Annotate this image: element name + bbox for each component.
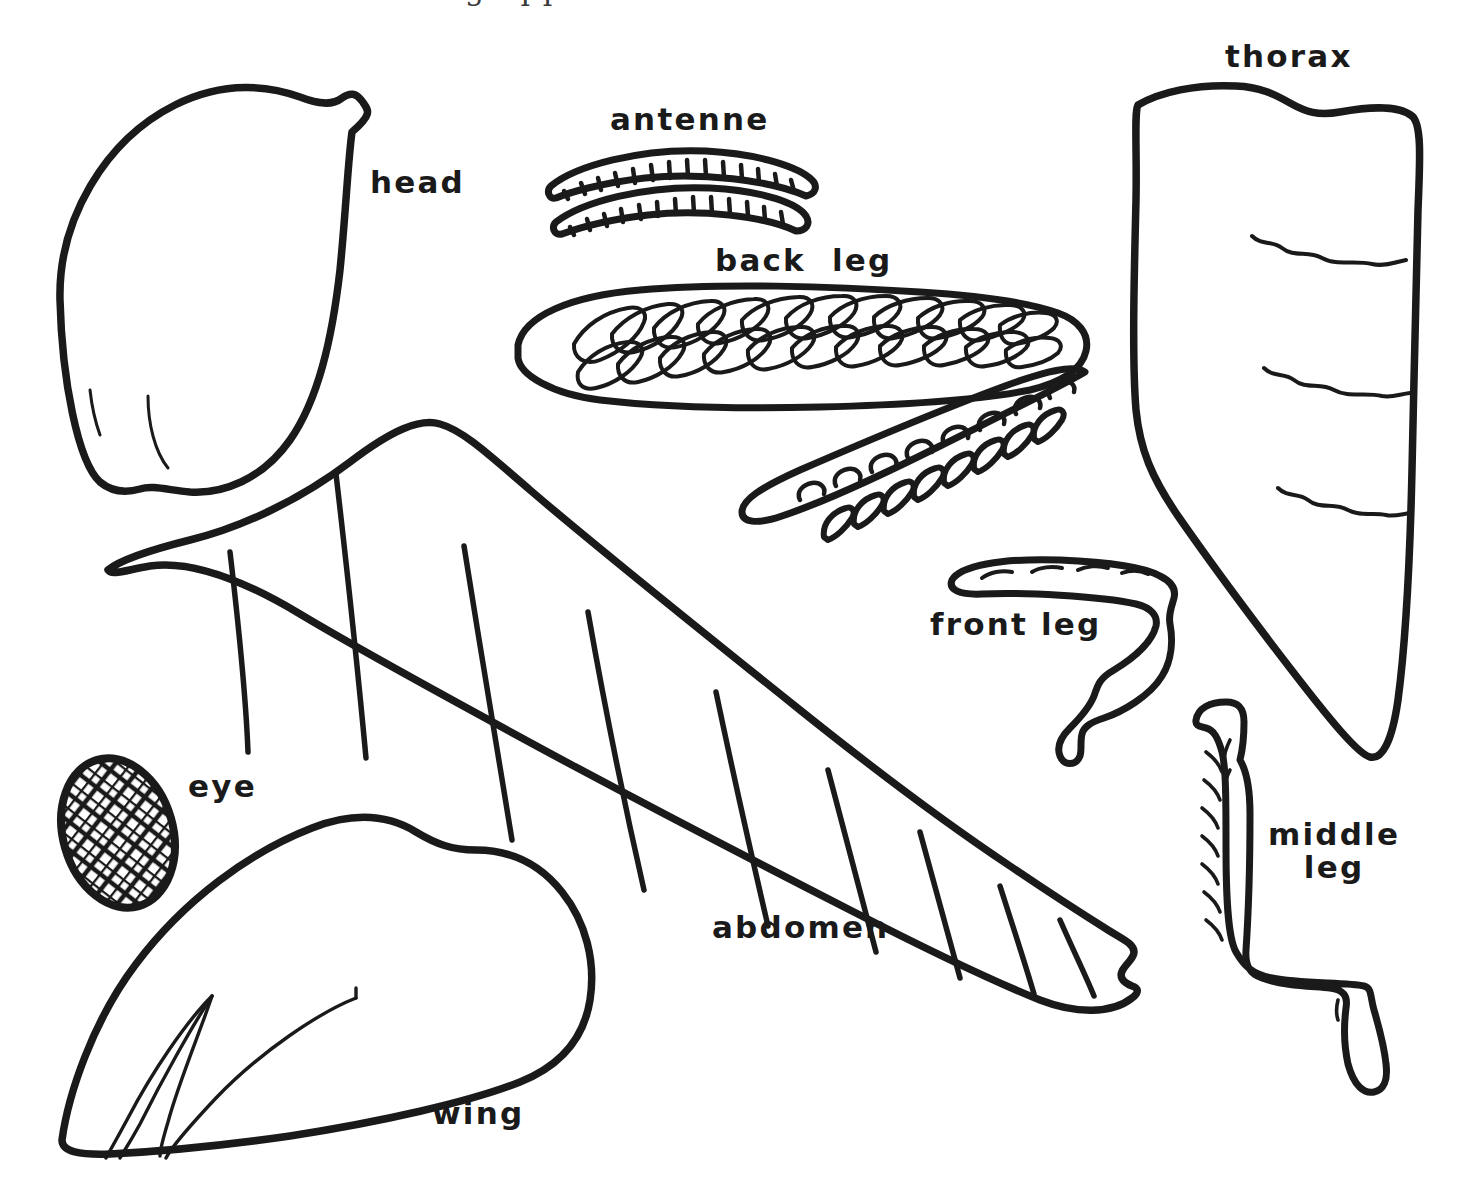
head-shape: [60, 87, 368, 492]
worksheet-page: ing app: [0, 0, 1470, 1200]
label-head: head: [370, 166, 465, 199]
abdomen-shape: [108, 423, 1137, 1011]
back-leg-shape: [518, 286, 1087, 540]
insect-parts-drawing: [0, 0, 1470, 1200]
front-leg-shape: [951, 560, 1174, 764]
eye-shape: [44, 740, 200, 940]
antenne-shape: [549, 151, 816, 235]
middle-leg-shape: [1196, 702, 1387, 1092]
label-thorax: thorax: [1225, 40, 1353, 73]
label-wing: wing: [432, 1097, 524, 1130]
label-middle-leg: middle leg: [1268, 818, 1400, 885]
label-back-leg: back leg: [715, 244, 892, 277]
label-front-leg: front leg: [930, 608, 1101, 641]
label-abdomen: abdomen: [712, 911, 889, 944]
thorax-shape: [1134, 86, 1420, 758]
label-antenne: antenne: [610, 103, 769, 136]
label-eye: eye: [188, 770, 257, 803]
